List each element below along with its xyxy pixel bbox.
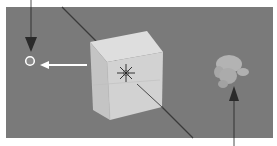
scene-overlay [0,0,277,146]
left-arrow-icon [40,61,87,69]
monkey-head-object[interactable] [214,55,249,88]
down-arrow-icon [25,0,37,52]
origin-point-icon[interactable] [26,57,35,66]
up-arrow-icon [229,86,239,146]
